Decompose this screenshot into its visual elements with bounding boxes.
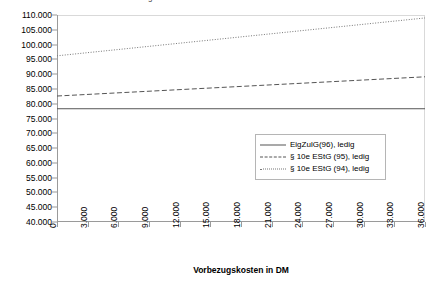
- legend-item-label: § 10e EStG (94), ledig: [290, 165, 369, 173]
- x-axis-tick-mark: [425, 222, 426, 227]
- legend: EigZulG(96), ledig§ 10e EStG (95), ledig…: [255, 134, 386, 180]
- x-axis-tick-mark: [364, 222, 365, 227]
- legend-swatch-dotted-icon: [260, 165, 286, 174]
- series-layer: [57, 15, 425, 222]
- y-axis-title: Endwertvorteil in DM: [0, 118, 73, 203]
- x-axis-tick-mark: [180, 222, 181, 227]
- x-axis-tick-mark: [302, 222, 303, 227]
- x-axis-tick-mark: [210, 222, 211, 227]
- legend-item: EigZulG(96), ledig: [260, 139, 380, 151]
- x-axis-tick-mark: [394, 222, 395, 227]
- legend-item-label: § 10e EStG (95), ledig: [290, 153, 369, 161]
- chart-figure: g 40.00045.00050.00055.00060.00065.00070…: [0, 0, 440, 283]
- legend-swatch-solid-icon: [260, 141, 286, 150]
- x-axis-tick-mark: [118, 222, 119, 227]
- x-axis-tick-label: 0: [49, 223, 58, 228]
- legend-item-label: EigZulG(96), ledig: [290, 141, 354, 149]
- x-axis-tick-mark: [272, 222, 273, 227]
- x-axis-tick-mark: [88, 222, 89, 227]
- legend-swatch-dashed-icon: [260, 153, 286, 162]
- series-line: [57, 77, 425, 96]
- legend-item: § 10e EStG (94), ledig: [260, 163, 380, 175]
- x-axis-title: Vorbezugskosten in DM: [57, 265, 425, 275]
- legend-item: § 10e EStG (95), ledig: [260, 151, 380, 163]
- x-axis-tick-mark: [57, 222, 58, 227]
- x-axis-tick-mark: [149, 222, 150, 227]
- series-line: [57, 18, 425, 56]
- x-axis-tick-mark: [333, 222, 334, 227]
- x-axis-tick-mark: [241, 222, 242, 227]
